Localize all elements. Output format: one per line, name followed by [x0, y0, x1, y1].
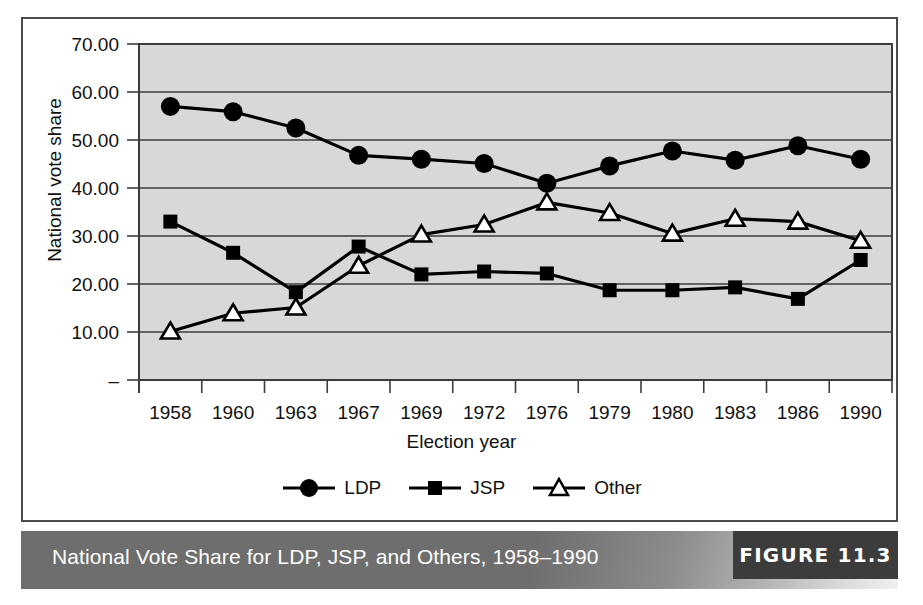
data-point-ldp — [726, 151, 745, 170]
data-point-jsp — [163, 215, 177, 229]
legend-item-other: Other — [531, 477, 642, 499]
x-tick-label: 1963 — [275, 402, 317, 419]
data-point-ldp — [349, 146, 368, 165]
chart-legend: LDP JSP Other — [23, 477, 900, 499]
data-point-ldp — [537, 174, 556, 193]
data-point-jsp — [352, 240, 366, 254]
data-point-jsp — [477, 265, 491, 279]
data-point-ldp — [663, 142, 682, 161]
y-tick-label: 30.00 — [71, 226, 119, 247]
data-point-ldp — [851, 150, 870, 169]
y-tick-label: 70.00 — [71, 34, 119, 55]
x-tick-label: 1980 — [651, 402, 693, 419]
figure-caption-text: National Vote Share for LDP, JSP, and Ot… — [52, 545, 598, 569]
data-point-ldp — [161, 97, 180, 116]
data-point-jsp — [414, 267, 428, 281]
legend-label-ldp: LDP — [344, 477, 381, 499]
y-tick-label: 10.00 — [71, 322, 119, 343]
figure-frame: National vote share –10.0020.0030.0040.0… — [21, 17, 898, 522]
x-tick-label: 1983 — [714, 402, 756, 419]
legend-marker-filled-square-icon — [407, 477, 463, 499]
figure-number-label: FIGURE 11.3 — [739, 543, 891, 567]
line-chart-svg: –10.0020.0030.0040.0050.0060.0070.001958… — [23, 19, 900, 419]
x-tick-label: 1960 — [212, 402, 254, 419]
y-tick-label: 20.00 — [71, 274, 119, 295]
data-point-jsp — [791, 292, 805, 306]
x-tick-label: 1986 — [777, 402, 819, 419]
x-tick-label: 1976 — [526, 402, 568, 419]
data-point-ldp — [475, 154, 494, 173]
x-tick-label: 1979 — [588, 402, 630, 419]
data-point-jsp — [603, 283, 617, 297]
legend-item-jsp: JSP — [407, 477, 505, 499]
y-tick-label: 60.00 — [71, 82, 119, 103]
y-tick-label: – — [108, 370, 119, 391]
chart-plot-area: National vote share –10.0020.0030.0040.0… — [23, 19, 900, 524]
x-axis-title: Election year — [23, 431, 900, 453]
legend-label-other: Other — [594, 477, 642, 499]
data-point-jsp — [854, 253, 868, 267]
legend-marker-open-triangle-icon — [531, 477, 587, 499]
data-point-ldp — [412, 150, 431, 169]
x-tick-label: 1972 — [463, 402, 505, 419]
data-point-ldp — [286, 119, 305, 138]
x-tick-label: 1967 — [337, 402, 379, 419]
x-tick-label: 1958 — [149, 402, 191, 419]
legend-marker-filled-circle-icon — [281, 477, 337, 499]
legend-label-jsp: JSP — [470, 477, 505, 499]
data-point-jsp — [540, 266, 554, 280]
figure-caption-bar: National Vote Share for LDP, JSP, and Ot… — [21, 531, 898, 589]
figure-number-block: FIGURE 11.3 — [733, 531, 898, 579]
data-point-jsp — [226, 246, 240, 260]
y-tick-label: 40.00 — [71, 178, 119, 199]
data-point-ldp — [788, 136, 807, 155]
legend-item-ldp: LDP — [281, 477, 381, 499]
data-point-jsp — [665, 283, 679, 297]
data-point-jsp — [728, 280, 742, 294]
data-point-ldp — [224, 102, 243, 121]
x-tick-label: 1990 — [839, 402, 881, 419]
x-tick-label: 1969 — [400, 402, 442, 419]
y-tick-label: 50.00 — [71, 130, 119, 151]
data-point-ldp — [600, 156, 619, 175]
